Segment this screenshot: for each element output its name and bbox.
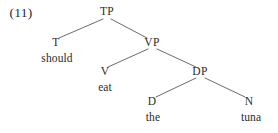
tree-node-v: V xyxy=(101,66,110,78)
syntax-tree-figure: (11) TPTVPVDPDNshouldeatthetuna xyxy=(0,0,278,133)
tree-branch xyxy=(156,78,196,97)
tree-node-n: N xyxy=(245,96,254,108)
tree-node-d: D xyxy=(148,96,157,108)
tree-node-t: T xyxy=(52,37,59,49)
tree-node-vp: VP xyxy=(144,37,159,49)
tree-branch xyxy=(111,19,147,38)
tree-node-tp: TP xyxy=(100,6,114,18)
tree-branch xyxy=(108,49,148,67)
tree-node-dp: DP xyxy=(192,66,207,78)
tree-terminal-eat: eat xyxy=(98,82,112,94)
tree-branch xyxy=(59,19,103,38)
tree-branch-lines xyxy=(0,0,278,133)
tree-terminal-tuna: tuna xyxy=(241,112,261,124)
tree-terminal-the: the xyxy=(146,112,160,124)
tree-terminal-should: should xyxy=(41,53,72,65)
tree-branch xyxy=(205,78,245,97)
tree-branch xyxy=(157,49,196,67)
